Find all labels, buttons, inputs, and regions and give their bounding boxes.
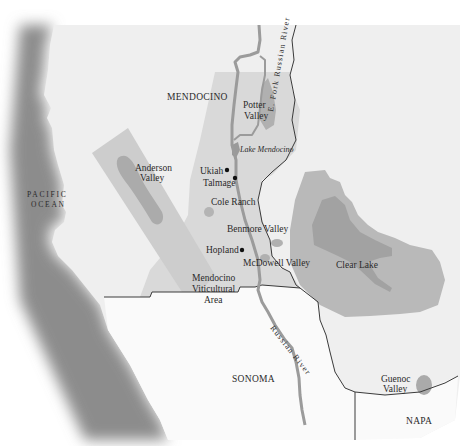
label-mva-line1: Mendocino — [192, 273, 236, 283]
label-lake-mendocino: Lake Mendocino — [239, 145, 294, 154]
label-ocean: OCEAN — [31, 200, 66, 209]
benmore-valley-area — [271, 239, 283, 247]
label-mva-line2: Viticultural — [192, 284, 236, 294]
cole-ranch-area — [204, 207, 214, 217]
label-benmore-valley: Benmore Valley — [227, 224, 289, 234]
label-potter-line1: Potter — [243, 100, 267, 110]
label-napa: NAPA — [406, 416, 432, 426]
label-guenoc-line2: Valley — [383, 384, 408, 394]
label-sonoma: SONOMA — [232, 374, 275, 384]
label-pacific: PACIFIC — [27, 190, 68, 199]
label-ukiah: Ukiah — [200, 166, 223, 176]
label-hopland: Hopland — [206, 245, 239, 255]
town-marker-hopland — [240, 248, 244, 252]
label-mendocino: MENDOCINO — [167, 92, 228, 102]
wine-region-map: MENDOCINO SONOMA NAPA PACIFIC OCEAN Pott… — [0, 0, 475, 446]
label-guenoc-line1: Guenoc — [381, 374, 411, 384]
label-talmage: Talmage — [203, 178, 236, 188]
label-mcdowell-valley: McDowell Valley — [243, 258, 310, 268]
town-marker-ukiah — [225, 168, 229, 172]
label-anderson-line1: Anderson — [135, 163, 172, 173]
label-mva-line3: Area — [204, 295, 223, 305]
label-cole-ranch: Cole Ranch — [211, 197, 256, 207]
label-anderson-line2: Valley — [140, 173, 165, 183]
label-clear-lake: Clear Lake — [336, 260, 378, 270]
label-potter-line2: Valley — [244, 111, 269, 121]
